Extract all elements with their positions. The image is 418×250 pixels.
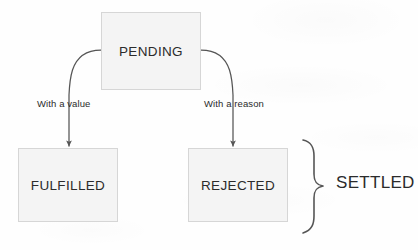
group-label-settled: SETTLED	[336, 173, 415, 193]
state-label-rejected: REJECTED	[201, 178, 275, 193]
state-label-fulfilled: FULFILLED	[31, 178, 105, 193]
state-box-fulfilled[interactable]: FULFILLED	[18, 148, 118, 222]
edge-label-with-a-value: With a value	[37, 98, 90, 109]
state-box-rejected[interactable]: REJECTED	[188, 148, 288, 222]
state-box-pending[interactable]: PENDING	[101, 12, 201, 90]
edge-label-with-a-reason: With a reason	[204, 98, 264, 109]
state-label-pending: PENDING	[119, 44, 183, 59]
settled-curly-brace	[303, 140, 323, 233]
promise-states-diagram: PENDING FULFILLED REJECTED With a value …	[0, 0, 418, 250]
